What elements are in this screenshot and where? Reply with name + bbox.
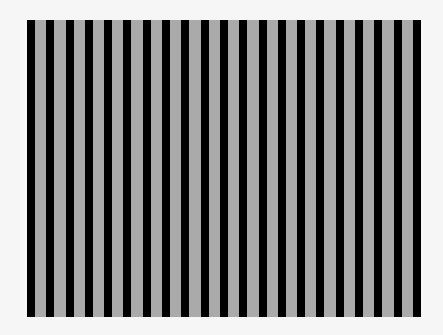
dark-stripe bbox=[220, 20, 228, 317]
light-stripe bbox=[112, 20, 123, 317]
light-stripe bbox=[382, 20, 393, 317]
light-stripe bbox=[363, 20, 374, 317]
dark-stripe bbox=[46, 20, 54, 317]
light-stripe bbox=[151, 20, 162, 317]
dark-stripe bbox=[355, 20, 363, 317]
dark-stripe bbox=[316, 20, 324, 317]
stripe-grating-image bbox=[27, 20, 421, 317]
dark-stripe bbox=[336, 20, 344, 317]
dark-stripe bbox=[201, 20, 209, 317]
dark-stripe bbox=[85, 20, 93, 317]
dark-stripe bbox=[181, 20, 189, 317]
dark-stripe bbox=[394, 20, 402, 317]
light-stripe bbox=[247, 20, 258, 317]
light-stripe bbox=[402, 20, 413, 317]
dark-stripe bbox=[259, 20, 267, 317]
dark-stripe bbox=[123, 20, 131, 317]
dark-stripe bbox=[66, 20, 74, 317]
light-stripe bbox=[74, 20, 85, 317]
light-stripe bbox=[209, 20, 220, 317]
light-stripe bbox=[189, 20, 200, 317]
light-stripe bbox=[54, 20, 65, 317]
dark-stripe bbox=[278, 20, 286, 317]
dark-stripe bbox=[297, 20, 305, 317]
dark-stripe bbox=[27, 20, 35, 317]
dark-stripe bbox=[143, 20, 151, 317]
light-stripe bbox=[170, 20, 181, 317]
dark-stripe bbox=[374, 20, 382, 317]
light-stripe bbox=[324, 20, 335, 317]
light-stripe bbox=[228, 20, 239, 317]
dark-stripe bbox=[239, 20, 247, 317]
light-stripe bbox=[344, 20, 355, 317]
light-stripe bbox=[93, 20, 104, 317]
light-stripe bbox=[305, 20, 316, 317]
light-stripe bbox=[267, 20, 278, 317]
dark-stripe bbox=[162, 20, 170, 317]
light-stripe bbox=[35, 20, 46, 317]
dark-stripe bbox=[104, 20, 112, 317]
dark-stripe bbox=[413, 20, 421, 317]
light-stripe bbox=[286, 20, 297, 317]
light-stripe bbox=[131, 20, 142, 317]
